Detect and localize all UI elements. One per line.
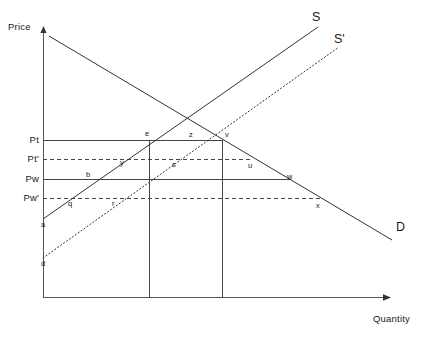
chart-canvas: [0, 0, 422, 340]
curve-label-supply-shifted: S': [334, 32, 345, 46]
supply-curve-s: [43, 27, 318, 219]
price-tick-pw: Pw: [0, 173, 39, 184]
y-axis-title: Price: [8, 21, 31, 32]
point-label-b: b: [86, 170, 90, 179]
point-label-v: v: [225, 130, 229, 139]
price-tick-pt-prime: Pt': [0, 153, 39, 164]
point-label-y: y: [120, 158, 124, 167]
point-label-x: x: [316, 201, 320, 210]
y-axis: [40, 26, 46, 298]
price-tick-pw-prime: Pw': [0, 192, 39, 203]
point-label-w: w: [287, 172, 292, 181]
point-label-z: z: [189, 130, 193, 139]
y-axis-arrow-icon: [40, 26, 46, 33]
demand-curve-d: [49, 36, 392, 240]
price-tick-pt: Pt: [0, 134, 39, 145]
x-axis-title: Quantity: [373, 313, 410, 324]
point-label-d: d: [41, 259, 45, 268]
curve-label-supply: S: [312, 10, 320, 24]
point-label-r: r: [112, 199, 115, 208]
x-axis-arrow-icon: [383, 294, 391, 300]
x-axis: [43, 294, 391, 300]
point-label-u: u: [248, 161, 252, 170]
point-label-e: e: [145, 129, 149, 138]
supply-demand-chart: Price Quantity Pt Pt' Pw Pw' S S' D a d …: [0, 0, 422, 340]
point-label-a: a: [41, 220, 45, 229]
curve-label-demand: D: [396, 220, 405, 234]
point-label-q: q: [68, 199, 72, 208]
point-label-s: s: [172, 160, 176, 169]
supply-curve-s-prime: [43, 47, 339, 258]
